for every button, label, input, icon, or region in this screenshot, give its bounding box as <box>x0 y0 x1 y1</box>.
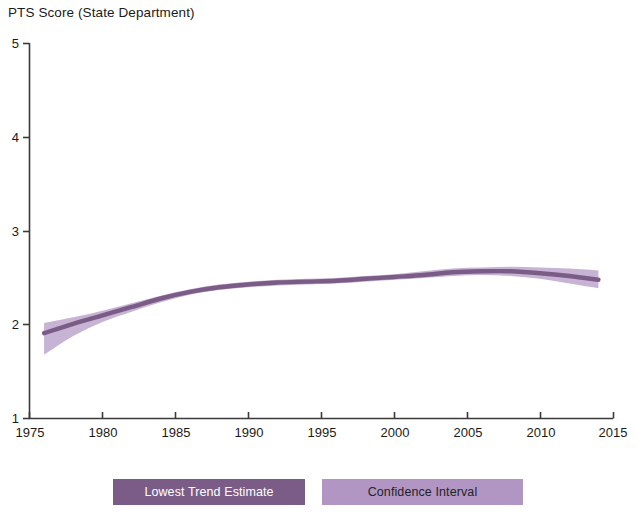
x-tick-label-1990: 1990 <box>235 425 264 440</box>
y-tick-label-5: 5 <box>12 36 19 51</box>
x-tick-label-1995: 1995 <box>308 425 337 440</box>
chart-page: PTS Score (State Department) 5 4 3 2 1 <box>0 0 642 521</box>
chart-legend: Lowest Trend Estimate Confidence Interva… <box>113 479 523 505</box>
y-tick-label-4: 4 <box>12 130 19 145</box>
chart-plot-area: 5 4 3 2 1 1975 1980 1985 1990 1995 2000 … <box>0 0 642 470</box>
legend-item-lowest-trend-estimate[interactable]: Lowest Trend Estimate <box>113 479 305 505</box>
x-tick-label-1985: 1985 <box>162 425 191 440</box>
lowest-trend-estimate-line <box>44 271 598 333</box>
x-tick-label-2005: 2005 <box>454 425 483 440</box>
x-axis-ticks <box>30 412 614 419</box>
legend-label-confidence-interval: Confidence Interval <box>368 485 478 499</box>
legend-item-confidence-interval[interactable]: Confidence Interval <box>322 479 523 505</box>
x-tick-label-1980: 1980 <box>89 425 118 440</box>
y-tick-label-2: 2 <box>12 317 19 332</box>
y-tick-label-1: 1 <box>12 411 19 426</box>
y-tick-label-3: 3 <box>12 224 19 239</box>
x-tick-label-1975: 1975 <box>16 425 45 440</box>
x-tick-label-2000: 2000 <box>381 425 410 440</box>
x-tick-label-2015: 2015 <box>599 425 628 440</box>
x-tick-label-2010: 2010 <box>527 425 556 440</box>
y-axis-ticks <box>23 44 30 419</box>
legend-label-lowest-trend-estimate: Lowest Trend Estimate <box>144 485 273 499</box>
